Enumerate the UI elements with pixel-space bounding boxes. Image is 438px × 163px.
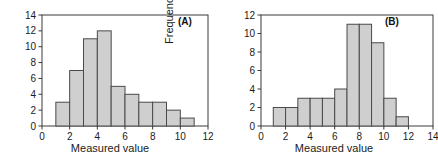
x-tick-label: 12 [403, 131, 415, 142]
panel-a: Frequency 02468101202468101214 Measured … [0, 0, 219, 163]
histogram-bar [111, 86, 125, 126]
x-tick-label: 10 [175, 131, 187, 142]
bar-rect [153, 102, 167, 126]
bar-rect [322, 98, 334, 126]
y-tick-label: 12 [244, 10, 256, 21]
histogram-bar [56, 102, 70, 126]
y-tick-label: 8 [249, 47, 255, 58]
histogram-bar [97, 31, 111, 126]
histogram-bar [139, 102, 153, 126]
bar-rect [310, 98, 322, 126]
y-tick-label: 6 [30, 73, 36, 84]
bar-rect [384, 98, 396, 126]
x-tick-label: 8 [357, 131, 363, 142]
y-tick-label: 2 [30, 105, 36, 116]
y-tick-label: 14 [25, 10, 37, 21]
y-tick-label: 2 [249, 102, 255, 113]
histogram-bar [153, 102, 167, 126]
y-tick-label: 10 [244, 28, 256, 39]
x-tick-label: 0 [39, 131, 45, 142]
histogram-bar [347, 24, 359, 126]
bar-rect [372, 43, 384, 126]
y-tick-label: 0 [30, 121, 36, 132]
bar-rect [125, 94, 139, 126]
histogram-bar [84, 39, 98, 126]
bar-rect [139, 102, 153, 126]
y-tick-label: 12 [25, 25, 37, 36]
histogram-bar [273, 108, 285, 127]
bar-rect [335, 89, 347, 126]
bar-rect [286, 108, 298, 127]
histogram-bar [167, 110, 181, 126]
histogram-bar [322, 98, 334, 126]
panel-a-label: (A) [178, 16, 192, 27]
histogram-bar [180, 118, 194, 126]
panel-b-label: (B) [385, 16, 399, 27]
histogram-bar [335, 89, 347, 126]
bar-rect [70, 71, 84, 127]
bar-rect [347, 24, 359, 126]
histogram-bar [286, 108, 298, 127]
bar-rect [56, 102, 70, 126]
x-tick-label: 10 [378, 131, 390, 142]
y-tick-label: 4 [30, 89, 36, 100]
bar-rect [273, 108, 285, 127]
panel-a-x-axis-title: Measured value [20, 142, 200, 154]
x-tick-label: 2 [283, 131, 289, 142]
bar-rect [97, 31, 111, 126]
x-tick-label: 6 [332, 131, 338, 142]
histogram-bar [125, 94, 139, 126]
bar-rect [167, 110, 181, 126]
x-tick-label: 0 [258, 131, 264, 142]
panel-b-y-axis-title: Frequency [163, 0, 177, 78]
bar-rect [84, 39, 98, 126]
y-tick-label: 0 [249, 121, 255, 132]
bar-rect [359, 24, 371, 126]
bar-rect [111, 86, 125, 126]
y-tick-label: 8 [30, 57, 36, 68]
x-tick-label: 2 [67, 131, 73, 142]
x-tick-label: 12 [202, 131, 214, 142]
histogram-bar [298, 98, 310, 126]
x-tick-label: 4 [307, 131, 313, 142]
bar-rect [396, 117, 408, 126]
y-tick-label: 6 [249, 65, 255, 76]
histogram-bar [396, 117, 408, 126]
y-tick-label: 10 [25, 41, 37, 52]
histogram-bar [384, 98, 396, 126]
bar-rect [298, 98, 310, 126]
y-tick-label: 4 [249, 84, 255, 95]
bar-rect [180, 118, 194, 126]
histogram-figure: Frequency 02468101202468101214 Measured … [0, 0, 438, 163]
panel-b: Frequency 02468101214024681012 Measured … [219, 0, 438, 163]
x-tick-label: 6 [122, 131, 128, 142]
histogram-bar [70, 71, 84, 127]
panel-b-plot: 02468101214024681012 [219, 0, 438, 163]
x-tick-label: 14 [427, 131, 438, 142]
histogram-bar [359, 24, 371, 126]
x-tick-label: 4 [95, 131, 101, 142]
histogram-bar [310, 98, 322, 126]
x-tick-label: 8 [150, 131, 156, 142]
histogram-bar [372, 43, 384, 126]
panel-b-x-axis-title: Measured value [239, 142, 429, 154]
